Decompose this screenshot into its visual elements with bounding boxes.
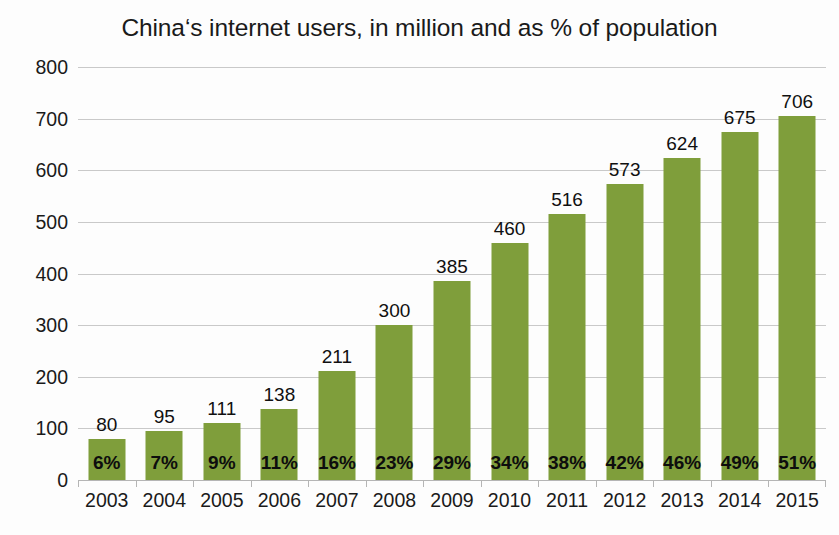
x-axis-tick-label: 2006 <box>251 489 309 512</box>
y-axis-tick-label: 100 <box>8 417 68 440</box>
x-axis-tick-mark <box>768 480 769 487</box>
x-axis-tick-marks <box>78 480 826 488</box>
bar[interactable] <box>549 214 586 480</box>
y-axis-tick-label: 400 <box>8 262 68 285</box>
x-axis-labels: 2003200420052006200720082009201020112012… <box>78 489 826 519</box>
bar-value-label: 675 <box>724 107 756 129</box>
x-axis-tick-label: 2014 <box>711 489 769 512</box>
x-axis-tick-mark <box>78 480 79 487</box>
bar-percent-label: 46% <box>663 452 701 474</box>
bar-value-label: 385 <box>436 256 468 278</box>
bar[interactable] <box>779 116 816 480</box>
x-axis-tick-mark <box>711 480 712 487</box>
bar-group[interactable]: 62446% <box>653 67 711 480</box>
bar[interactable] <box>433 281 470 480</box>
bar[interactable] <box>721 132 758 480</box>
x-axis-tick-label: 2005 <box>193 489 251 512</box>
bar-percent-label: 7% <box>151 452 178 474</box>
x-axis-tick-mark <box>653 480 654 487</box>
bar-group[interactable]: 67549% <box>711 67 769 480</box>
bar-value-label: 573 <box>609 159 641 181</box>
bar-percent-label: 29% <box>433 452 471 474</box>
x-axis-tick-mark <box>193 480 194 487</box>
x-axis-tick-label: 2004 <box>136 489 194 512</box>
bar[interactable] <box>491 243 528 480</box>
x-axis-tick-label: 2009 <box>423 489 481 512</box>
x-axis-tick-mark <box>136 480 137 487</box>
bar-percent-label: 51% <box>778 452 816 474</box>
x-axis-tick-mark <box>366 480 367 487</box>
bar-percent-label: 38% <box>548 452 586 474</box>
bar-group[interactable]: 46034% <box>481 67 539 480</box>
x-axis-tick-mark <box>825 480 826 487</box>
bar-series: 806%957%1119%13811%21116%30023%38529%460… <box>78 67 826 480</box>
x-axis-tick-mark <box>308 480 309 487</box>
x-axis-tick-label: 2008 <box>366 489 424 512</box>
bar-group[interactable]: 957% <box>136 67 194 480</box>
y-axis-tick-label: 0 <box>8 469 68 492</box>
x-axis-tick-label: 2011 <box>538 489 596 512</box>
bar-value-label: 624 <box>666 133 698 155</box>
bar-percent-label: 42% <box>606 452 644 474</box>
x-axis-tick-label: 2003 <box>78 489 136 512</box>
bar[interactable] <box>664 158 701 480</box>
bar-value-label: 300 <box>379 300 411 322</box>
x-axis-tick-label: 2013 <box>653 489 711 512</box>
x-axis-tick-mark <box>481 480 482 487</box>
x-axis-tick-label: 2010 <box>481 489 539 512</box>
bar-value-label: 516 <box>551 189 583 211</box>
bar-percent-label: 11% <box>261 452 298 474</box>
bar-group[interactable]: 806% <box>78 67 136 480</box>
x-axis-tick-label: 2007 <box>308 489 366 512</box>
bar-group[interactable]: 57342% <box>596 67 654 480</box>
y-axis-tick-label: 300 <box>8 314 68 337</box>
bar-value-label: 80 <box>96 414 117 436</box>
cut-off-caption-remnant <box>0 528 839 535</box>
bar-value-label: 138 <box>264 384 296 406</box>
bar-group[interactable]: 1119% <box>193 67 251 480</box>
bar-percent-label: 23% <box>375 452 413 474</box>
y-axis-tick-label: 600 <box>8 159 68 182</box>
bar-percent-label: 9% <box>208 452 235 474</box>
bar-value-label: 111 <box>207 398 236 420</box>
x-axis-tick-mark <box>423 480 424 487</box>
bar-percent-label: 6% <box>93 452 120 474</box>
bar-percent-label: 49% <box>721 452 759 474</box>
bar-percent-label: 34% <box>491 452 529 474</box>
x-axis-tick-mark <box>538 480 539 487</box>
bar-group[interactable]: 70651% <box>768 67 826 480</box>
bar-value-label: 211 <box>322 346 352 368</box>
bar-percent-label: 16% <box>318 452 356 474</box>
x-axis-tick-label: 2015 <box>768 489 826 512</box>
y-axis-tick-label: 800 <box>8 56 68 79</box>
bar-group[interactable]: 30023% <box>366 67 424 480</box>
bar-value-label: 95 <box>154 406 175 428</box>
chart-title: China‘s internet users, in million and a… <box>0 14 839 42</box>
bar-group[interactable]: 21116% <box>308 67 366 480</box>
x-axis-tick-mark <box>596 480 597 487</box>
bar-value-label: 706 <box>781 91 813 113</box>
plot-area: 806%957%1119%13811%21116%30023%38529%460… <box>78 67 826 480</box>
bar-group[interactable]: 13811% <box>251 67 309 480</box>
y-axis-tick-label: 200 <box>8 365 68 388</box>
x-axis-tick-label: 2012 <box>596 489 654 512</box>
chart-screenshot: China‘s internet users, in million and a… <box>0 0 839 535</box>
bar-group[interactable]: 51638% <box>538 67 596 480</box>
bar[interactable] <box>606 184 643 480</box>
y-axis-tick-label: 700 <box>8 107 68 130</box>
y-axis-tick-label: 500 <box>8 210 68 233</box>
bar-value-label: 460 <box>494 218 526 240</box>
bar-group[interactable]: 38529% <box>423 67 481 480</box>
x-axis-tick-mark <box>251 480 252 487</box>
